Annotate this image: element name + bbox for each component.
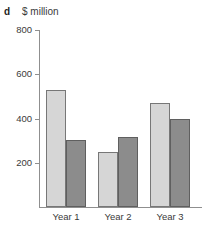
x-axis-label: Year 1 (38, 212, 94, 222)
y-axis-tick-label: 200 (16, 158, 32, 168)
chart-figure: d $ million 200400600800 Year 1Year 2Yea… (0, 0, 205, 235)
y-axis-tick-label: 600 (16, 69, 32, 79)
plot-area: 200400600800 Year 1Year 2Year 3 (0, 0, 205, 235)
y-axis-tick (35, 119, 39, 120)
y-axis-tick (35, 74, 39, 75)
bar-year-2-series-light (98, 152, 118, 207)
bar-year-1-series-dark (66, 140, 86, 207)
y-axis-tick (35, 163, 39, 164)
x-axis-label: Year 2 (90, 212, 146, 222)
bar-year-2-series-dark (118, 137, 138, 207)
x-axis-label: Year 3 (142, 212, 198, 222)
bar-year-3-series-dark (170, 119, 190, 208)
bar-year-3-series-light (150, 103, 170, 207)
x-axis-line (39, 207, 202, 208)
y-axis-line (39, 30, 40, 207)
y-axis-tick-label: 400 (16, 114, 32, 124)
y-axis-tick-label: 800 (16, 25, 32, 35)
bar-year-1-series-light (46, 90, 66, 207)
y-axis-tick (35, 30, 39, 31)
